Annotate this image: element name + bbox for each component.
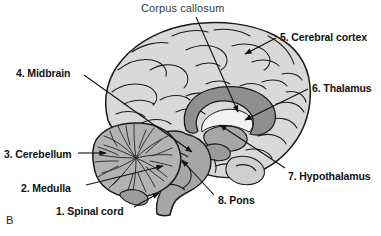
label-spinal-cord: 1. Spinal cord: [56, 205, 123, 217]
label-midbrain: 4. Midbrain: [16, 67, 70, 79]
label-thalamus: 6. Thalamus: [312, 82, 372, 94]
label-cerebral-cortex: 5. Cerebral cortex: [280, 31, 367, 43]
label-cerebellum: 3. Cerebellum: [4, 148, 72, 160]
panel-letter-b: B: [6, 214, 13, 226]
label-medulla: 2. Medulla: [21, 182, 71, 194]
label-corpus-callosum: Corpus callosum: [141, 2, 224, 14]
brain-anatomy-figure: Corpus callosum5. Cerebral cortex4. Midb…: [0, 0, 381, 236]
label-hypothalamus: 7. Hypothalamus: [288, 170, 371, 182]
label-pons: 8. Pons: [218, 194, 255, 206]
